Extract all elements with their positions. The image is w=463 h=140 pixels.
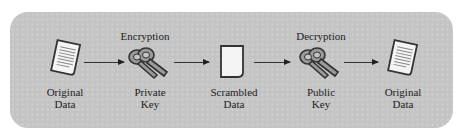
document-icon <box>47 38 83 78</box>
label-line1: Original <box>378 86 428 98</box>
public-key: Public Key <box>296 86 346 110</box>
scrambled-data: Scrambled Data <box>205 86 263 110</box>
label-line2: Key <box>296 98 346 110</box>
label-line2: Data <box>40 98 90 110</box>
label-line1: Public <box>296 86 346 98</box>
arrow-1 <box>84 62 124 63</box>
label-line2: Data <box>378 98 428 110</box>
encryption-title: Encryption <box>105 30 185 42</box>
arrow-3 <box>254 62 290 63</box>
private-key: Private Key <box>125 86 175 110</box>
label-line2: Key <box>125 98 175 110</box>
decryption-title: Decryption <box>281 30 361 42</box>
original-data-source: Original Data <box>40 86 90 110</box>
original-data-result: Original Data <box>378 86 428 110</box>
keys-icon <box>127 45 171 83</box>
label-line2: Data <box>205 98 263 110</box>
label-line1: Original <box>40 86 90 98</box>
label-line1: Private <box>125 86 175 98</box>
arrow-4 <box>344 62 378 63</box>
label-line1: Scrambled <box>205 86 263 98</box>
document-icon <box>384 38 420 78</box>
arrow-2 <box>174 62 209 63</box>
keys-icon <box>298 45 342 83</box>
blank-document-icon <box>218 44 248 80</box>
